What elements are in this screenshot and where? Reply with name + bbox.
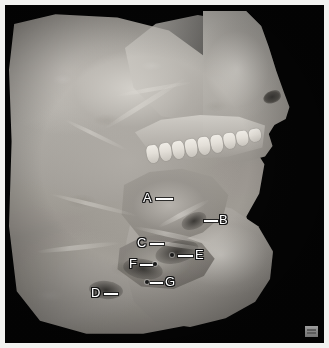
label-c: C (137, 236, 147, 249)
specimen-photograph: ABCDEFG (5, 5, 324, 343)
label-e: E (195, 248, 204, 261)
label-f: F (129, 257, 137, 270)
leader-line-d (104, 293, 118, 295)
leader-line-f (140, 264, 153, 266)
anatomy-figure: ABCDEFG (0, 0, 329, 348)
marker-dot-e (170, 253, 174, 257)
tooth (184, 138, 199, 158)
tooth (248, 128, 262, 143)
corner-watermark-icon (305, 326, 318, 337)
leader-line-a (156, 198, 173, 200)
leader-line-g (150, 282, 163, 284)
leader-line-e (178, 255, 193, 257)
leader-line-b (204, 220, 218, 222)
photo-backdrop: ABCDEFG (5, 5, 324, 343)
marker-dot-g (145, 280, 149, 284)
tooth (158, 142, 173, 162)
tooth (222, 132, 236, 150)
label-g: G (165, 275, 175, 288)
label-d: D (91, 286, 101, 299)
tooth (197, 136, 212, 156)
tooth (171, 140, 186, 160)
label-b: B (219, 213, 228, 226)
tooth (145, 144, 160, 164)
leader-line-c (150, 243, 164, 245)
marker-dot-f (153, 262, 157, 266)
tooth (235, 130, 249, 146)
label-a: A (143, 191, 152, 204)
